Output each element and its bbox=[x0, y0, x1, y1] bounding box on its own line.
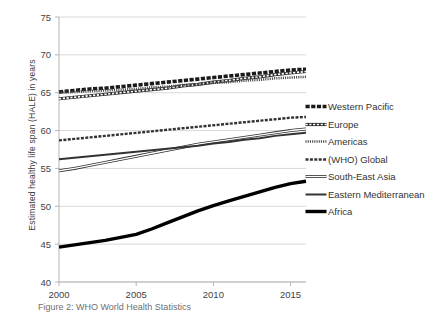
legend-item-label: Americas bbox=[328, 137, 368, 147]
y-axis-tick-labels: 7570656055504540 bbox=[40, 12, 59, 288]
legend-item-label: Africa bbox=[328, 207, 352, 217]
svg-text:65: 65 bbox=[40, 87, 51, 98]
legend-swatch-icon bbox=[305, 189, 327, 200]
svg-text:2010: 2010 bbox=[203, 289, 224, 300]
svg-text:70: 70 bbox=[40, 49, 51, 60]
svg-text:40: 40 bbox=[40, 277, 51, 288]
legend-swatch-icon bbox=[305, 136, 327, 147]
legend-item-who-global[interactable]: (WHO) Global bbox=[305, 151, 438, 169]
legend-swatch-icon bbox=[305, 206, 327, 217]
svg-text:2015: 2015 bbox=[280, 289, 301, 300]
legend-swatch-icon bbox=[305, 119, 327, 130]
figure-caption: Figure 2: WHO World Health Statistics bbox=[38, 302, 338, 315]
series-line-western-pacific bbox=[59, 69, 306, 92]
legend-item-label: Europe bbox=[328, 120, 359, 130]
svg-text:2005: 2005 bbox=[126, 289, 147, 300]
chart-legend: Western PacificEuropeAmericas(WHO) Globa… bbox=[305, 98, 438, 221]
legend-swatch-icon bbox=[305, 154, 327, 165]
legend-item-africa[interactable]: Africa bbox=[305, 203, 438, 221]
legend-item-europe[interactable]: Europe bbox=[305, 116, 438, 134]
series-line-africa bbox=[59, 181, 306, 247]
svg-text:2000: 2000 bbox=[48, 289, 69, 300]
data-series-group bbox=[59, 69, 306, 247]
svg-text:60: 60 bbox=[40, 125, 51, 136]
legend-item-south-east-asia[interactable]: South-East Asia bbox=[305, 168, 438, 186]
svg-text:45: 45 bbox=[40, 239, 51, 250]
svg-text:55: 55 bbox=[40, 163, 51, 174]
legend-swatch-icon bbox=[305, 171, 327, 182]
legend-item-label: Western Pacific bbox=[328, 102, 394, 112]
x-axis-tick-labels: 2000200520102015 bbox=[48, 282, 301, 300]
legend-item-americas[interactable]: Americas bbox=[305, 133, 438, 151]
chart-figure: Estimated healthy life span (HALE) in ye… bbox=[0, 0, 438, 315]
series-line-south-east-asia bbox=[59, 129, 306, 171]
legend-item-label: Eastern Mediterranean bbox=[328, 190, 425, 200]
svg-text:50: 50 bbox=[40, 201, 51, 212]
svg-text:75: 75 bbox=[40, 12, 51, 23]
legend-item-label: South-East Asia bbox=[328, 172, 396, 182]
legend-item-eastern-mediterranean[interactable]: Eastern Mediterranean bbox=[305, 186, 438, 204]
legend-item-label: (WHO) Global bbox=[328, 155, 388, 165]
legend-item-western-pacific[interactable]: Western Pacific bbox=[305, 98, 438, 116]
legend-swatch-icon bbox=[305, 101, 327, 112]
